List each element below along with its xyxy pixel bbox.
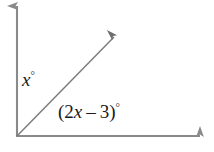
lower-angle-variable: x — [74, 101, 82, 122]
lower-angle-label: (2x–3)° — [58, 102, 120, 121]
angle-diagram-figure: x° (2x–3)° — [0, 0, 214, 152]
lower-angle-constant: 3 — [100, 101, 110, 122]
lower-angle-operator: – — [82, 101, 100, 122]
upper-angle-label: x° — [22, 70, 35, 89]
lower-angle-degree-icon: ° — [116, 101, 120, 113]
vertex-point — [16, 135, 18, 137]
lower-angle-coefficient: 2 — [64, 101, 74, 122]
upper-angle-degree-icon: ° — [30, 69, 34, 81]
